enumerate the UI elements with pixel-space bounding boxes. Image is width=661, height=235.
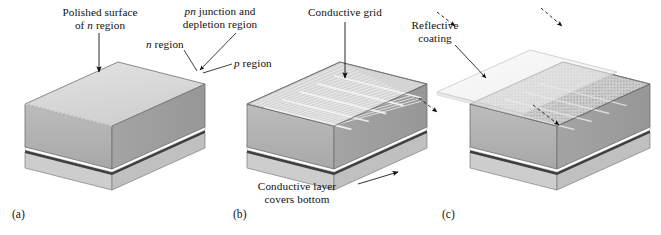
label-pn-junction: pn junction and depletion region: [163, 5, 277, 30]
label-conductive-grid: Conductive grid: [292, 6, 398, 19]
panel-b-block: [247, 62, 427, 190]
panel-a-block: [25, 62, 205, 190]
label-polished-surface: Polished surface of n region: [34, 6, 166, 31]
caption-b: (b): [233, 208, 247, 221]
label-p-region: p region: [234, 57, 272, 70]
caption-a: (a): [12, 208, 25, 221]
label-n-region: n region: [146, 38, 184, 51]
caption-c: (c): [442, 208, 455, 221]
panel-c-block: [437, 50, 650, 190]
solar-cell-figure: Polished surface of n region n region p …: [0, 0, 661, 235]
label-conductive-layer: Conductive layer covers bottom: [235, 180, 359, 205]
label-reflective-coating: Reflective coating: [404, 19, 466, 44]
